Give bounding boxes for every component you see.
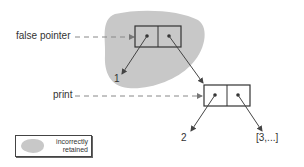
legend-text: incorrectly retained: [56, 138, 88, 154]
legend-swatch: [21, 139, 44, 153]
pointer-arrow-to-2: [191, 95, 215, 131]
false-pointer-label: false pointer: [16, 31, 70, 41]
legend-line-2: retained: [56, 146, 88, 154]
value-2-label: 2: [181, 133, 187, 143]
legend-line-1: incorrectly: [56, 138, 88, 146]
value-3-list-label: [3,...]: [256, 133, 278, 143]
value-1-label: 1: [114, 74, 120, 84]
print-label: print: [53, 90, 72, 100]
legend-box: incorrectly retained: [15, 135, 92, 157]
